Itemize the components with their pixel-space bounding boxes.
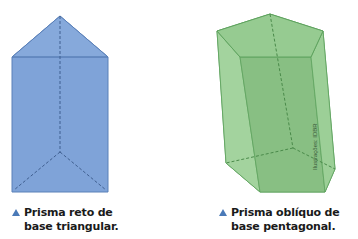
caption-line-1: Prisma oblíquo de (231, 206, 340, 220)
caption-pentagonal-prism: Prisma oblíquo de base pentagonal. (231, 206, 340, 234)
caption-line-1: Prisma reto de (24, 206, 119, 220)
triangular-prism (12, 16, 108, 192)
illustration-credit: Ilustrações: IDBR (312, 123, 318, 170)
triangle-marker-icon (12, 209, 20, 216)
prism-diagrams (0, 0, 358, 239)
caption-line-2: base triangular. (24, 220, 119, 234)
caption-line-2: base pentagonal. (231, 220, 340, 234)
caption-triangular-prism: Prisma reto de base triangular. (24, 206, 119, 234)
triangle-marker-icon (219, 209, 227, 216)
